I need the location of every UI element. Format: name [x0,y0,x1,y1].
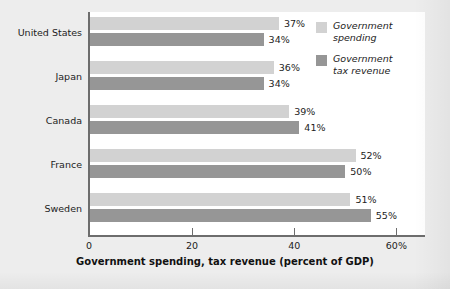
x-axis-tick-mark [294,228,295,236]
bar-value-label: 52% [361,149,382,162]
bar-spending [90,193,350,206]
bar-revenue [90,33,264,46]
bar-value-label: 37% [284,17,305,30]
legend-label-spending-line2: spending [333,32,377,43]
x-axis-tick-label: 20 [172,240,212,251]
x-axis-line [88,235,425,237]
bar-value-label: 50% [350,165,371,178]
chart-figure: United States37%34%Japan36%34%Canada39%4… [0,0,450,289]
bar-value-label: 34% [269,33,290,46]
bar-value-label: 55% [376,209,397,222]
x-axis-tick-label: 0 [69,240,109,251]
legend-swatch-icon-revenue [316,55,327,66]
category-label: Japan [0,71,82,82]
bar-value-label: 51% [355,193,376,206]
bar-spending [90,105,289,118]
x-axis-title: Government spending, tax revenue (percen… [0,256,450,267]
bar-revenue [90,209,371,222]
legend-label-spending-line1: Government [333,20,392,31]
category-label: Canada [0,115,82,126]
bar-value-label: 39% [294,105,315,118]
bar-revenue [90,165,345,178]
legend-label-revenue-line2: tax revenue [333,65,390,76]
bar-value-label: 36% [279,61,300,74]
category-label: United States [0,27,82,38]
legend-swatch-icon-spending [316,22,327,33]
bar-revenue [90,121,299,134]
legend-label-revenue-line1: Government [333,53,392,64]
x-axis-tick-label: 40 [274,240,314,251]
bar-revenue [90,77,264,90]
x-axis-tick-mark [192,228,193,236]
bar-spending [90,61,274,74]
x-axis-tick-mark [396,228,397,236]
bar-spending [90,149,356,162]
category-label: France [0,159,82,170]
x-axis-tick-label: 60% [376,240,416,251]
bar-value-label: 41% [304,121,325,134]
legend-label-spending: Government spending [333,20,428,43]
legend-label-revenue: Government tax revenue [333,53,428,76]
bar-value-label: 34% [269,77,290,90]
bar-spending [90,17,279,30]
category-label: Sweden [0,203,82,214]
